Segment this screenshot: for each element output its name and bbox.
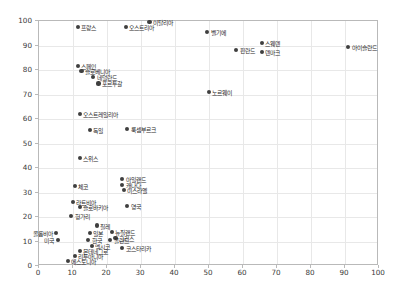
x-tick-label: 100 [371,268,385,277]
gridline-vertical [311,21,312,264]
data-point-label: 벨기에 [211,28,226,37]
data-point[interactable] [79,69,83,73]
gridline-vertical [175,21,176,264]
data-point-label: 체코 [78,182,88,191]
data-point[interactable] [78,205,82,209]
x-tick-label: 10 [67,268,76,277]
data-point[interactable] [120,183,124,187]
data-point[interactable] [78,156,82,160]
data-point[interactable] [207,90,211,94]
y-tick-label: 50 [6,138,32,147]
data-point-label: 아이슬란드 [352,42,377,51]
gridline-horizontal [39,242,377,243]
data-point[interactable] [120,177,124,181]
data-point[interactable] [124,25,128,29]
x-tick-label: 20 [101,268,110,277]
x-tick-label: 30 [135,268,144,277]
data-point[interactable] [125,127,129,131]
data-point[interactable] [71,200,75,204]
x-tick-label: 60 [237,268,246,277]
y-tick-mark [35,45,38,46]
y-tick-mark [35,20,38,21]
data-point[interactable] [91,75,95,79]
gridline-horizontal [39,95,377,96]
data-point[interactable] [120,246,124,250]
data-point[interactable] [88,128,92,132]
gridline-vertical [277,21,278,264]
y-tick-label: 10 [6,236,32,245]
data-point-label: 프랑스 [81,23,96,32]
data-point-label: 노르웨이 [212,88,232,97]
data-point-label: 오스트레일리아 [83,110,118,119]
gridline-vertical [345,21,346,264]
y-tick-mark [35,192,38,193]
y-tick-label: 60 [6,114,32,123]
x-tick-mark [72,265,73,268]
gridline-vertical [243,21,244,264]
gridline-horizontal [39,168,377,169]
gridline-vertical [209,21,210,264]
scatter-chart: 프랑스오스트리아이탈리아벨기에스웨덴핀란드덴마크아이슬란드스페인슬로베니아네덜란… [0,0,397,297]
x-tick-mark [208,265,209,268]
y-tick-label: 70 [6,89,32,98]
data-point[interactable] [260,50,264,54]
x-tick-label: 80 [305,268,314,277]
y-tick-mark [35,265,38,266]
x-tick-mark [344,265,345,268]
x-tick-mark [106,265,107,268]
data-point[interactable] [76,64,80,68]
data-point[interactable] [122,188,126,192]
y-tick-label: 30 [6,187,32,196]
data-point-label: 미국 [44,236,54,245]
x-tick-mark [378,265,379,268]
y-tick-label: 40 [6,163,32,172]
data-point-label: 포르투갈 [102,79,122,88]
gridline-horizontal [39,217,377,218]
data-point-label: 이탈리아 [153,18,173,27]
x-tick-mark [310,265,311,268]
data-point-label: 헝가리 [75,211,90,220]
data-point[interactable] [260,41,264,45]
gridline-vertical [141,21,142,264]
y-tick-label: 0 [6,261,32,270]
x-tick-label: 70 [271,268,280,277]
x-tick-label: 40 [169,268,178,277]
data-point-label: 코스타리카 [126,243,151,252]
x-tick-mark [276,265,277,268]
data-point-label: 스위스 [83,154,98,163]
data-point[interactable] [96,81,100,85]
data-point[interactable] [66,259,70,263]
x-tick-label: 90 [339,268,348,277]
gridline-vertical [73,21,74,264]
data-point[interactable] [234,48,238,52]
data-point-label: 핀란드 [240,46,255,55]
data-point-label: 독일 [93,126,103,135]
data-point-label: 영국 [131,201,141,210]
data-point[interactable] [54,231,58,235]
y-tick-mark [35,118,38,119]
x-tick-label: 0 [36,268,41,277]
data-point[interactable] [110,230,114,234]
data-point[interactable] [78,112,82,116]
data-point[interactable] [147,20,151,24]
gridline-horizontal [39,119,377,120]
y-tick-mark [35,241,38,242]
y-tick-mark [35,216,38,217]
x-tick-mark [38,265,39,268]
x-tick-mark [140,265,141,268]
data-point[interactable] [76,25,80,29]
gridline-horizontal [39,193,377,194]
data-point[interactable] [95,223,99,227]
plot-area: 프랑스오스트리아이탈리아벨기에스웨덴핀란드덴마크아이슬란드스페인슬로베니아네덜란… [38,20,378,265]
data-point[interactable] [346,45,350,49]
data-point[interactable] [73,184,77,188]
gridline-horizontal [39,46,377,47]
x-tick-mark [242,265,243,268]
data-point[interactable] [125,204,129,208]
data-point[interactable] [88,231,92,235]
y-tick-label: 80 [6,65,32,74]
x-tick-label: 50 [203,268,212,277]
data-point-label: 에스토니아 [71,257,96,266]
data-point-label: 덴마크 [265,47,280,56]
y-tick-mark [35,167,38,168]
